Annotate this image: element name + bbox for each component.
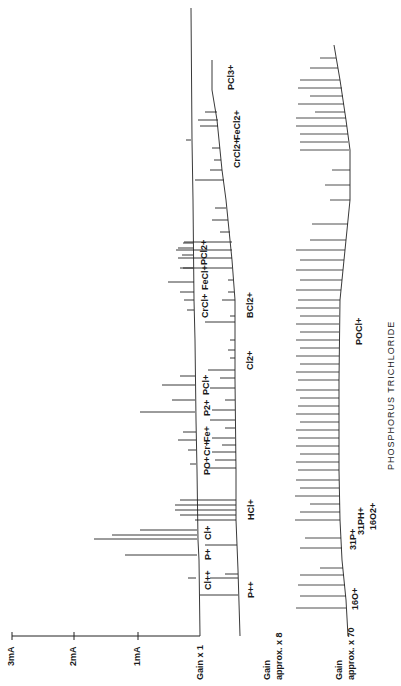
label-crcl2-plus: CrCl2+ [232,139,242,168]
label-p-pp: P++ [246,581,256,598]
label-cl-pp: Cl++ [203,570,213,590]
label-cl2-plus: Cl2+ [245,351,255,370]
label-16o2-plus: 16O2+ [368,503,378,530]
label-bcl2-plus: BCl2+ [245,292,255,318]
label-pcl2-plus: PCl2+ [199,240,209,265]
gain-label-x8-line2: approx. x 8 [274,632,284,680]
label-fecl2-plus: FeCl2+ [232,110,242,140]
label-po-plus: PO+ [202,457,212,475]
label-crcl-plus: CrCl+ [200,294,210,318]
gain-label-x70-line1: Gain [334,660,344,680]
trace2-peaks [175,112,238,595]
label-cl-plus: Cl+ [203,526,213,540]
trace-gain-x1 [191,8,200,636]
trace3-peaks [295,58,350,608]
label-p2-plus: P2+ [202,400,212,416]
tick-3mA: 3mA [6,646,16,666]
label-fe-plus: Fe+ [202,426,212,442]
label-pcl-plus: PCl+ [201,375,211,395]
label-pocl-plus: POCl+ [354,318,364,345]
trace1-peaks [94,140,197,578]
label-cr-plus: Cr+ [202,441,212,456]
mass-spectrum-figure [0,0,401,686]
label-hcl-plus: HCl+ [246,499,256,520]
label-16o-plus: 16O+ [350,588,360,610]
label-pcl3-plus: PCl3+ [226,65,236,90]
tick-2mA: 2mA [68,646,78,666]
label-p-plus: P+ [203,549,213,560]
gain-label-x8-line1: Gain [262,660,272,680]
label-fecl-plus: FeCl+ [200,265,210,290]
tick-1mA: 1mA [132,646,142,666]
figure-title: PHOSPHORUS TRICHLORIDE [386,321,396,470]
label-31ph-plus: 31PH+ [356,507,366,535]
gain-label-x1: Gain x 1 [195,645,205,680]
gain-label-x70-line2: approx. x 70 [346,627,356,680]
